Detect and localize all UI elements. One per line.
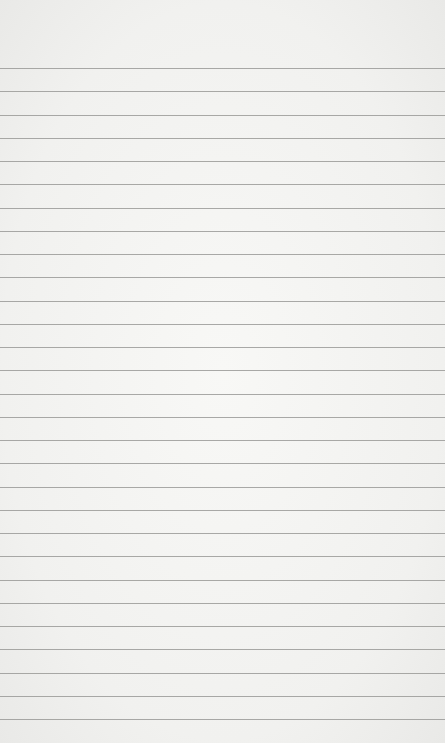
ruled-line	[0, 580, 445, 581]
ruled-line	[0, 440, 445, 441]
ruled-line	[0, 487, 445, 488]
ruled-line	[0, 417, 445, 418]
ruled-line	[0, 208, 445, 209]
ruled-line	[0, 301, 445, 302]
ruled-line	[0, 370, 445, 371]
ruled-line	[0, 231, 445, 232]
ruled-line	[0, 324, 445, 325]
ruled-line	[0, 277, 445, 278]
lined-paper	[0, 0, 445, 743]
ruled-line	[0, 649, 445, 650]
ruled-line	[0, 161, 445, 162]
ruled-line	[0, 556, 445, 557]
ruled-line	[0, 626, 445, 627]
ruled-line	[0, 91, 445, 92]
ruled-line	[0, 510, 445, 511]
ruled-line	[0, 394, 445, 395]
ruled-line	[0, 138, 445, 139]
ruled-line	[0, 254, 445, 255]
ruled-line	[0, 696, 445, 697]
ruled-line	[0, 115, 445, 116]
ruled-line	[0, 719, 445, 720]
ruled-line	[0, 68, 445, 69]
ruled-line	[0, 603, 445, 604]
ruled-line	[0, 184, 445, 185]
ruled-line	[0, 463, 445, 464]
ruled-line	[0, 533, 445, 534]
ruled-line	[0, 347, 445, 348]
ruled-line	[0, 673, 445, 674]
